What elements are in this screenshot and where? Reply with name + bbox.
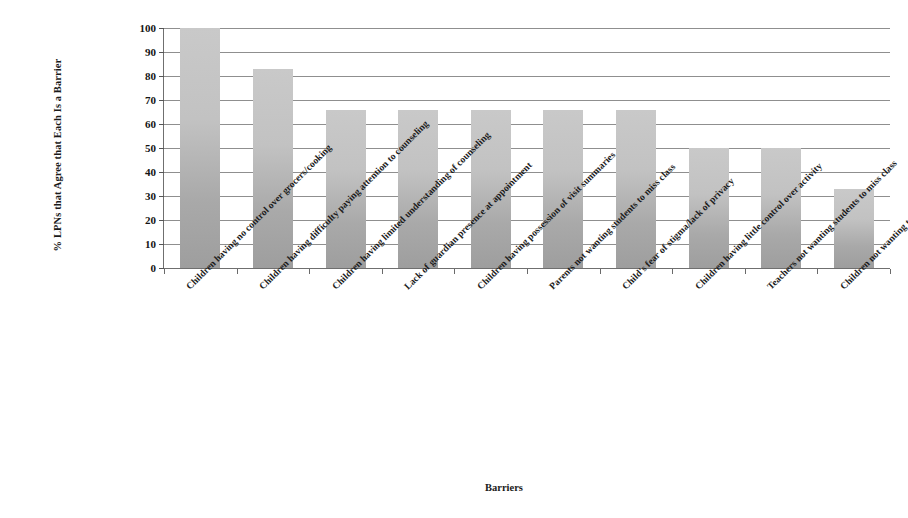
y-axis-title: % LPNs that Agree that Each Is a Barrier xyxy=(48,10,68,300)
x-axis-category-label: Children having limited understanding of… xyxy=(329,284,337,292)
x-axis-tick-mark xyxy=(817,269,818,274)
y-axis-tick-label: 70 xyxy=(122,94,156,106)
y-axis-tick-label: 90 xyxy=(122,46,156,58)
bar xyxy=(180,28,220,268)
x-axis-category-label: Children having no control over grocers/… xyxy=(184,284,192,292)
x-axis-tick-mark xyxy=(745,269,746,274)
x-axis-title: Barriers xyxy=(0,482,908,493)
x-axis-tick-mark xyxy=(527,269,528,274)
x-axis-tick-mark xyxy=(237,269,238,274)
y-axis-tick-label: 40 xyxy=(122,166,156,178)
x-axis-tick-mark xyxy=(672,269,673,274)
x-axis-tick-mark xyxy=(890,269,891,274)
bar-chart: % LPNs that Agree that Each Is a Barrier… xyxy=(0,0,908,518)
y-axis-tick-label: 0 xyxy=(122,262,156,274)
x-axis-title-text: Barriers xyxy=(485,482,523,493)
x-axis-category-label: Lack of guardian presence at appointment xyxy=(402,284,410,292)
x-axis-category-label: Children not wanting to miss class xyxy=(837,284,845,292)
x-axis-tick-mark xyxy=(382,269,383,274)
x-axis-category-label: Children having possession of visit summ… xyxy=(474,284,482,292)
y-axis-tick-label: 30 xyxy=(122,190,156,202)
x-axis-tick-mark xyxy=(600,269,601,274)
y-axis-tick-label: 10 xyxy=(122,238,156,250)
x-axis-tick-mark xyxy=(454,269,455,274)
x-axis-category-label: Parents not wanting students to miss cla… xyxy=(547,284,555,292)
y-axis-tick-label: 80 xyxy=(122,70,156,82)
y-axis-tick-label: 50 xyxy=(122,142,156,154)
y-axis-tick-label: 20 xyxy=(122,214,156,226)
x-axis-tick-mark xyxy=(309,269,310,274)
x-axis-category-label: Child's fear of stigma/lack of privacy xyxy=(620,284,628,292)
x-axis-category-label: Children having little control over acti… xyxy=(692,284,700,292)
x-axis-tick-mark xyxy=(164,269,165,274)
y-axis-tick-label: 100 xyxy=(122,22,156,34)
bar xyxy=(253,69,293,268)
y-axis-tick-label: 60 xyxy=(122,118,156,130)
x-axis-category-label: Teachers not wanting students to miss cl… xyxy=(765,284,773,292)
x-axis-category-label: Children having difficulty paying attent… xyxy=(257,284,265,292)
